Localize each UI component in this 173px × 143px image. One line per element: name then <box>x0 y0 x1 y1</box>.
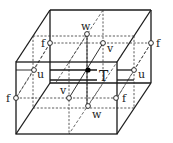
label-u-right: u <box>138 68 145 81</box>
node-f-front-right <box>114 96 119 101</box>
label-f-back-left: f <box>41 37 46 50</box>
label-u-left: u <box>37 68 44 81</box>
label-f-front-right: f <box>122 92 127 105</box>
label-v-front: v <box>59 84 67 97</box>
node-f-back-right <box>149 41 154 46</box>
label-f-back-right: f <box>156 37 161 50</box>
node-f-front-left <box>14 96 19 101</box>
node-v-front <box>67 96 72 101</box>
node-v-back <box>101 41 106 46</box>
node-f-back-left <box>48 41 53 46</box>
label-w-bottom: w <box>92 108 102 121</box>
node-u-left <box>32 68 37 73</box>
label-f-front-left: f <box>6 92 11 105</box>
node-center-T <box>85 67 90 72</box>
label-v-back: v <box>106 42 114 55</box>
label-w-top: w <box>81 20 91 33</box>
node-w-bottom <box>86 104 91 109</box>
grid-cell-diagram: w w v v f f f f u u T <box>0 0 173 143</box>
label-center-T: T <box>99 68 109 84</box>
node-u-right <box>132 68 137 73</box>
